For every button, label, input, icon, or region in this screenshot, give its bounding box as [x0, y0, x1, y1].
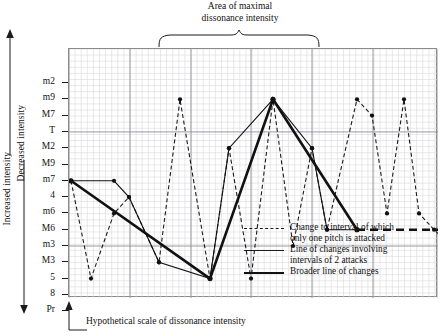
- legend-label-dashed-line-2: only one pitch is attacked: [290, 233, 385, 244]
- legend-swatch-dashed-icon: [244, 228, 284, 229]
- y-axis-tick-label-m3: m3: [43, 240, 55, 250]
- y-axis-tick-Pr: [62, 310, 69, 311]
- legend-swatch-thick-icon: [244, 272, 284, 274]
- y-axis-tick-label-4: 4: [50, 191, 55, 201]
- legend-label-dashed-line-1: Change to interval of which: [290, 222, 394, 233]
- chart-title: Area of maximal dissonance intensity: [160, 1, 320, 24]
- x-axis-caption: Hypothetical scale of dissonance intensi…: [86, 316, 246, 326]
- legend-label-thin-line-1: Line of changes involving: [290, 244, 387, 255]
- y-axis-tick-label-M6: M6: [42, 224, 55, 234]
- legend-item-thick: Broader line of changes: [244, 267, 444, 278]
- y-axis-tick-label-m6: m6: [43, 208, 55, 218]
- title-brace-icon: [156, 30, 322, 48]
- y-axis-tick-label-T: T: [49, 126, 55, 136]
- legend-label-thick-line-1: Broader line of changes: [290, 266, 379, 277]
- y-axis-tick-label-m9: m9: [43, 94, 55, 104]
- legend-label-thin-line-2: intervals of 2 attacks: [290, 255, 367, 266]
- y-axis-tick-label-M7: M7: [42, 110, 55, 120]
- chart-title-line-1: Area of maximal: [160, 1, 320, 13]
- y-axis-tick-label-m2: m2: [43, 77, 55, 87]
- y-axis-tick-label-M3: M3: [42, 257, 55, 267]
- y-axis-tick-labels: m2m9M7TM2M9m74m6M6m3M358Pr: [0, 0, 68, 336]
- y-axis-tick-label-Pr: Pr: [47, 305, 55, 315]
- y-axis-tick-label-m7: m7: [43, 175, 55, 185]
- legend: Change to interval of which only one pit…: [244, 223, 444, 278]
- y-axis-tick-label-8: 8: [50, 289, 55, 299]
- plot-area: Change to interval of which only one pit…: [68, 48, 437, 297]
- y-axis-tick-label-M9: M9: [42, 159, 55, 169]
- chart-figure: Area of maximal dissonance intensity Inc…: [0, 0, 445, 336]
- y-axis-tick-label-5: 5: [50, 273, 55, 283]
- chart-title-line-2: dissonance intensity: [160, 13, 320, 25]
- legend-swatch-thin-icon: [244, 250, 284, 251]
- y-axis-tick-label-M2: M2: [42, 142, 55, 152]
